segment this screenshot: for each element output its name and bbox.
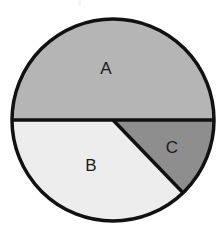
pie-slice-label-a: A <box>100 59 112 78</box>
pie-slice-label-c: C <box>166 138 178 157</box>
pie-slice-label-b: B <box>85 156 96 175</box>
pie-slice-a[interactable] <box>12 19 214 120</box>
pie-chart-figure: A B C <box>0 0 223 229</box>
pie-chart-svg: A B C <box>0 0 223 229</box>
